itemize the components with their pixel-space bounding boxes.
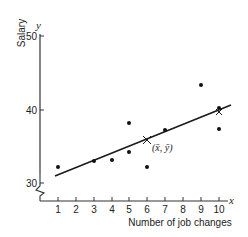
data-points: [56, 83, 221, 169]
y-tick-label: 50: [26, 31, 38, 42]
x-tick-label: 7: [162, 204, 168, 215]
x-axis-variable: x: [228, 194, 234, 206]
data-point: [127, 121, 131, 125]
data-point: [163, 128, 167, 132]
y-axis-break-icon: [36, 174, 44, 201]
data-point: [127, 150, 131, 154]
y-axis-variable: y: [35, 19, 41, 31]
x-tick-label: 5: [126, 204, 132, 215]
x-tick-label: 8: [180, 204, 186, 215]
y-tick-label: 40: [26, 105, 38, 116]
regression-line: [55, 105, 231, 176]
data-point: [56, 165, 60, 169]
x-tick-label: 1: [55, 204, 61, 215]
y-axis-title: Salary: [16, 19, 27, 47]
data-point: [110, 158, 114, 162]
x-tick-label: 3: [91, 204, 97, 215]
y-tick-label: 30: [26, 178, 38, 189]
x-tick-label: 10: [213, 204, 225, 215]
data-point: [145, 165, 149, 169]
x-tick-label: 4: [109, 204, 115, 215]
data-point: [217, 106, 221, 110]
x-tick-label: 6: [144, 204, 150, 215]
data-point: [92, 159, 96, 163]
data-point: [217, 127, 221, 131]
x-tick-label: 9: [198, 204, 204, 215]
mean-point-label: (x̄, ȳ): [152, 142, 173, 154]
x-tick-label: 2: [73, 204, 79, 215]
scatter-chart: 50 40 30 1 2 3 4 5 6 7 8 9 10 y x Salary…: [0, 0, 248, 237]
data-point: [199, 83, 203, 87]
x-axis-title: Number of job changes: [128, 217, 231, 228]
